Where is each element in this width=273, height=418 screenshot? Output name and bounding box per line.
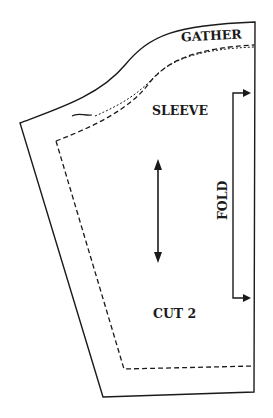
fold-bracket-icon <box>233 89 251 302</box>
piece-name-label: SLEEVE <box>152 103 208 118</box>
sleeve-pattern-diagram: GATHER SLEEVE FOLD CUT 2 <box>0 0 273 418</box>
cut-instruction-label: CUT 2 <box>153 306 196 321</box>
fold-label: FOLD <box>215 180 230 220</box>
notch-icon <box>72 114 92 116</box>
grainline-arrow-icon <box>154 159 162 263</box>
gather-label: GATHER <box>181 26 243 44</box>
